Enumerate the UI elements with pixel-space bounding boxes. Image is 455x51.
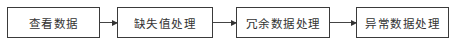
node-view-data: 查看数据 [7,7,100,38]
arrow-1 [100,22,117,23]
node-redundant-data-handling: 冗余数据处理 [236,7,330,38]
node-outlier-handling: 异常数据处理 [356,7,449,38]
arrow-2 [213,22,236,23]
node-missing-value-handling: 缺失值处理 [117,7,213,38]
arrow-3 [330,22,356,23]
